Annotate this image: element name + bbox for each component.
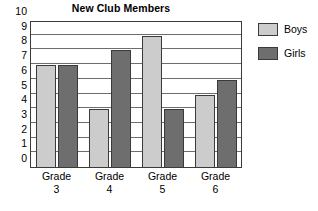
y-tick-label: 1 (21, 138, 27, 148)
y-tick-label: 8 (21, 35, 27, 45)
legend-item-girls[interactable]: Girls (258, 46, 316, 61)
legend-label: Girls (284, 48, 306, 59)
y-tick-label: 2 (21, 124, 27, 134)
bar-group (83, 21, 136, 168)
x-tick-label-line1: Grade (95, 170, 124, 182)
x-tick-label: Grade5 (136, 170, 189, 196)
bar-group (136, 21, 189, 168)
y-tick-label: 4 (21, 94, 27, 104)
x-tick-label-line2: 3 (30, 183, 83, 196)
x-tick-label-line2: 4 (83, 183, 136, 196)
y-tick-label: 3 (21, 109, 27, 119)
y-axis: 012345678910 (0, 21, 27, 168)
x-tick-label-line1: Grade (201, 170, 230, 182)
y-tick-label: 7 (21, 50, 27, 60)
y-tick-label: 10 (15, 6, 27, 16)
legend-swatch-girls (258, 47, 278, 60)
x-tick-label-line1: Grade (148, 170, 177, 182)
x-axis: Grade3Grade4Grade5Grade6 (30, 170, 242, 210)
x-tick-label: Grade3 (30, 170, 83, 196)
bar-boys-grade-4 (89, 109, 109, 168)
bar-chart: New Club Members 012345678910 Grade3Grad… (0, 0, 318, 211)
bar-boys-grade-6 (195, 95, 215, 169)
x-tick-label: Grade4 (83, 170, 136, 196)
x-tick-label-line1: Grade (42, 170, 71, 182)
bars-layer (30, 21, 242, 168)
x-tick-label-line2: 5 (136, 183, 189, 196)
bar-boys-grade-3 (36, 65, 56, 168)
chart-title: New Club Members (0, 2, 242, 14)
y-tick-label: 5 (21, 80, 27, 90)
bar-boys-grade-5 (142, 36, 162, 168)
y-tick-label: 9 (21, 21, 27, 31)
legend-label: Boys (284, 24, 307, 35)
legend-item-boys[interactable]: Boys (258, 22, 316, 37)
y-tick-label: 0 (21, 153, 27, 163)
bar-girls-grade-4 (111, 50, 131, 168)
bar-girls-grade-3 (58, 65, 78, 168)
bar-girls-grade-5 (164, 109, 184, 168)
bar-group (30, 21, 83, 168)
legend: BoysGirls (258, 22, 316, 70)
y-tick-label: 6 (21, 65, 27, 75)
bar-girls-grade-6 (217, 80, 237, 168)
x-tick-label-line2: 6 (189, 183, 242, 196)
legend-swatch-boys (258, 23, 278, 36)
x-tick-label: Grade6 (189, 170, 242, 196)
bar-group (189, 21, 242, 168)
